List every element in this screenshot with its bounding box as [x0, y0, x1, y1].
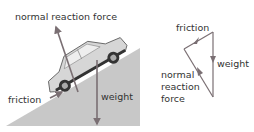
triangle-label-normal-3: force: [161, 93, 185, 104]
label-weight: weight: [101, 91, 133, 102]
triangle-label-normal-1: normal: [161, 69, 194, 80]
triangle-normal-arrowhead: [197, 67, 203, 76]
label-normal-reaction-force: normal reaction force: [15, 11, 117, 22]
triangle-label-friction: friction: [176, 22, 209, 33]
triangle-label-weight: weight: [217, 58, 249, 69]
triangle-friction-side: [184, 32, 213, 49]
triangle-label-normal-2: reaction: [161, 81, 200, 92]
force-diagram: normal reaction force friction weight fr…: [0, 0, 254, 132]
triangle-weight-arrowhead: [210, 56, 216, 63]
label-friction: friction: [8, 94, 41, 105]
